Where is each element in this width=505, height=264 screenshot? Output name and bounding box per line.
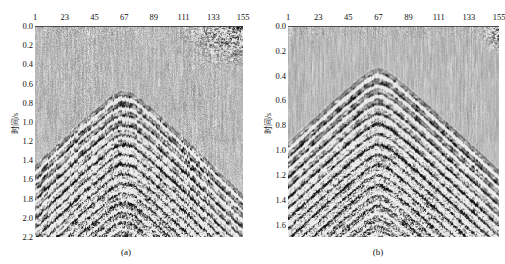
ytick-label: 0.2 <box>275 47 286 55</box>
panel-b-xtick-labels: 123456789111133155 <box>288 12 499 24</box>
xtick-label: 23 <box>60 12 69 22</box>
panel-b-plot-area <box>288 26 499 237</box>
ytick-label: 2.0 <box>22 214 33 222</box>
ytick-label: 1.8 <box>22 195 33 203</box>
panel-a-caption: (a) <box>0 247 252 257</box>
xtick-label: 111 <box>433 12 445 22</box>
panel-b-caption: (b) <box>252 247 504 257</box>
xtick-label: 67 <box>374 12 383 22</box>
ytick-label: 1.4 <box>22 156 33 164</box>
ytick-label: 1.6 <box>22 175 33 183</box>
ytick-label: 0.8 <box>22 99 33 107</box>
xtick-label: 89 <box>150 12 159 22</box>
xtick-label: 133 <box>207 12 220 22</box>
panel-a-plot-area <box>35 26 243 237</box>
ytick-label: 0.4 <box>22 60 33 68</box>
panel-a-ytick-labels: 0.00.20.40.60.81.01.21.41.61.82.02.2 <box>13 26 33 237</box>
xtick-label: 111 <box>178 12 190 22</box>
xtick-label: 1 <box>286 12 290 22</box>
xtick-label: 155 <box>237 12 250 22</box>
ytick-label: 0.0 <box>275 22 286 30</box>
ytick-label: 1.2 <box>275 171 286 179</box>
panel-b: 时间/s 0.00.20.40.60.81.01.21.41.6 1234567… <box>252 0 504 264</box>
xtick-label: 23 <box>314 12 323 22</box>
xtick-label: 1 <box>33 12 37 22</box>
ytick-label: 1.0 <box>22 118 33 126</box>
panel-b-ytick-labels: 0.00.20.40.60.81.01.21.41.6 <box>266 26 286 237</box>
ytick-label: 2.2 <box>22 233 33 241</box>
xtick-label: 89 <box>404 12 413 22</box>
ytick-label: 1.2 <box>22 137 33 145</box>
ytick-label: 1.4 <box>275 196 286 204</box>
xtick-label: 67 <box>120 12 129 22</box>
panel-a: 时间/s 0.00.20.40.60.81.01.21.41.61.82.02.… <box>0 0 252 264</box>
ytick-label: 0.6 <box>22 80 33 88</box>
ytick-label: 0.8 <box>275 121 286 129</box>
xtick-label: 155 <box>493 12 505 22</box>
ytick-label: 0.6 <box>275 96 286 104</box>
ytick-label: 0.4 <box>275 72 286 80</box>
ytick-label: 0.2 <box>22 41 33 49</box>
ytick-label: 0.0 <box>22 22 33 30</box>
ytick-label: 1.6 <box>275 221 286 229</box>
xtick-label: 45 <box>344 12 353 22</box>
ytick-label: 1.0 <box>275 146 286 154</box>
panel-a-xtick-labels: 123456789111133155 <box>35 12 243 24</box>
xtick-label: 45 <box>90 12 99 22</box>
xtick-label: 133 <box>462 12 475 22</box>
